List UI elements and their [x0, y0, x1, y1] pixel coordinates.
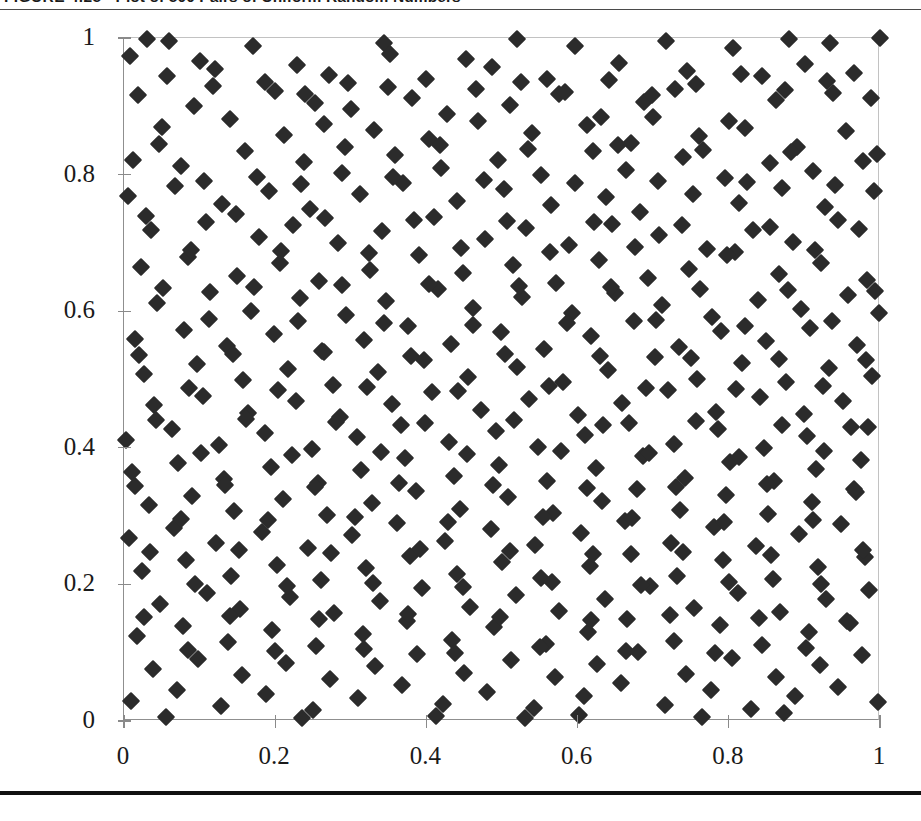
- data-point: [162, 419, 180, 437]
- data-point: [506, 585, 524, 603]
- data-point: [391, 415, 409, 433]
- data-point: [686, 412, 704, 430]
- data-point: [168, 681, 186, 699]
- data-point: [370, 592, 388, 610]
- data-point: [750, 609, 768, 627]
- data-point: [869, 693, 887, 711]
- data-point: [859, 418, 877, 436]
- data-point: [196, 213, 214, 231]
- data-point: [121, 47, 139, 65]
- data-point: [831, 515, 849, 533]
- data-point: [763, 570, 781, 588]
- data-point: [227, 205, 245, 223]
- data-point: [716, 169, 734, 187]
- data-point: [242, 301, 260, 319]
- data-point: [249, 228, 267, 246]
- data-point: [487, 422, 505, 440]
- data-point: [777, 372, 795, 390]
- data-point: [158, 67, 176, 85]
- data-point: [677, 665, 695, 683]
- data-point: [520, 389, 538, 407]
- data-point: [542, 196, 560, 214]
- data-point: [796, 55, 814, 73]
- data-point: [535, 340, 553, 358]
- data-point: [775, 704, 793, 722]
- data-point: [450, 499, 468, 517]
- y-axis-tick: [118, 311, 131, 312]
- data-point: [735, 119, 753, 137]
- data-point: [457, 50, 475, 68]
- data-point: [565, 174, 583, 192]
- data-point: [355, 639, 373, 657]
- data-point: [773, 178, 791, 196]
- data-point: [124, 150, 142, 168]
- data-point: [303, 440, 321, 458]
- data-point: [199, 310, 217, 328]
- data-point: [626, 238, 644, 256]
- data-point: [706, 644, 724, 662]
- x-axis-tick: [879, 715, 880, 728]
- data-point: [459, 368, 477, 386]
- data-point: [538, 70, 556, 88]
- data-point: [685, 599, 703, 617]
- data-point: [221, 110, 239, 128]
- data-point: [665, 632, 683, 650]
- data-point: [658, 381, 676, 399]
- data-point: [467, 80, 485, 98]
- data-point: [541, 243, 559, 261]
- data-point: [385, 146, 403, 164]
- data-point: [825, 176, 843, 194]
- data-point: [129, 86, 147, 104]
- data-point: [862, 367, 880, 385]
- data-point: [687, 75, 705, 93]
- data-point: [736, 316, 754, 334]
- data-point: [639, 269, 657, 287]
- data-point: [769, 264, 787, 282]
- y-axis-tick-label: 0.8: [0, 160, 95, 188]
- data-point: [680, 260, 698, 278]
- data-point: [135, 365, 153, 383]
- data-point: [496, 345, 514, 363]
- data-point: [261, 458, 279, 476]
- data-point: [131, 258, 149, 276]
- data-point: [572, 524, 590, 542]
- data-point: [727, 380, 745, 398]
- data-point: [407, 482, 425, 500]
- data-point: [698, 240, 716, 258]
- data-point: [403, 89, 421, 107]
- data-point: [342, 100, 360, 118]
- data-point: [160, 32, 178, 50]
- data-point: [800, 623, 818, 641]
- data-point: [784, 232, 802, 250]
- data-point: [547, 274, 565, 292]
- data-point: [455, 663, 473, 681]
- data-point: [786, 687, 804, 705]
- data-point: [448, 191, 466, 209]
- data-point: [769, 350, 787, 368]
- data-point: [649, 172, 667, 190]
- data-point: [236, 141, 254, 159]
- data-point: [837, 122, 855, 140]
- data-point: [842, 417, 860, 435]
- data-point: [636, 378, 654, 396]
- y-axis-tick: [118, 37, 131, 38]
- data-point: [529, 438, 547, 456]
- data-point: [234, 371, 252, 389]
- data-point: [588, 655, 606, 673]
- data-point: [492, 323, 510, 341]
- data-point: [490, 456, 508, 474]
- data-point: [438, 105, 456, 123]
- data-point: [268, 555, 286, 573]
- data-point: [187, 355, 205, 373]
- data-point: [850, 219, 868, 237]
- data-point: [122, 691, 140, 709]
- figure-caption: FIGURE 4.25Plot of 500 Pairs of Uniform …: [4, 0, 461, 6]
- data-point: [422, 383, 440, 401]
- data-point: [476, 230, 494, 248]
- data-point: [574, 687, 592, 705]
- data-point: [753, 67, 771, 85]
- data-point: [816, 590, 834, 608]
- data-point: [552, 441, 570, 459]
- data-point: [852, 451, 870, 469]
- data-point: [554, 373, 572, 391]
